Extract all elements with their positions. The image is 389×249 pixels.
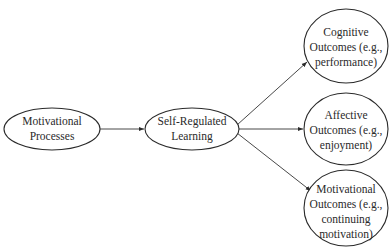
node-label: Motivational (22, 115, 81, 127)
node-label: motivation) (319, 228, 373, 241)
edge-srl-to-cognitive (237, 62, 307, 125)
diagram-canvas: Motivational Processes Self-Regulated Le… (0, 0, 389, 249)
node-label: Learning (171, 130, 213, 143)
node-motivational-outcomes: Motivational Outcomes (e.g., continuing … (304, 170, 388, 246)
node-label: Outcomes (e.g., (310, 198, 383, 211)
node-label: Self-Regulated (158, 115, 227, 128)
node-label: Motivational (316, 183, 375, 195)
node-label: performance) (315, 56, 377, 69)
node-affective-outcomes: Affective Outcomes (e.g., enjoyment) (304, 93, 388, 165)
node-label: Processes (30, 130, 75, 142)
node-cognitive-outcomes: Cognitive Outcomes (e.g., performance) (304, 9, 388, 83)
node-label: Cognitive (323, 26, 368, 39)
node-label: continuing (321, 213, 370, 226)
node-motivational-processes: Motivational Processes (4, 108, 100, 150)
node-label: Outcomes (e.g., (310, 41, 383, 54)
node-label: enjoyment) (320, 139, 373, 152)
node-self-regulated-learning: Self-Regulated Learning (145, 108, 239, 150)
node-label: Affective (324, 109, 367, 121)
edge-srl-to-motivational-outcomes (237, 133, 311, 191)
node-label: Outcomes (e.g., (310, 124, 383, 137)
